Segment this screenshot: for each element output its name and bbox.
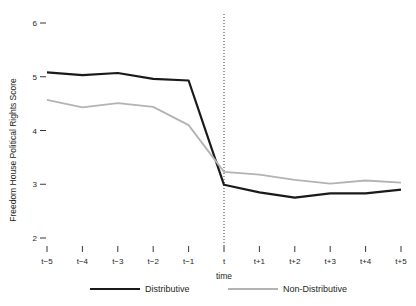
x-axis: t−5t−4t−3t−2t−1tt+1t+2t+3t+4t+5 time — [41, 246, 407, 281]
y-tick-label: 2 — [33, 234, 38, 243]
x-tick-label: t+3 — [325, 257, 337, 266]
x-tick-label: t−4 — [77, 257, 89, 266]
x-tick-label: t+5 — [395, 257, 407, 266]
series-group — [47, 72, 401, 197]
x-tick-label: t — [223, 257, 226, 266]
x-tick-label: t−2 — [148, 257, 160, 266]
legend-label-1: Distributive — [145, 284, 190, 294]
chart-legend: DistributiveNon-Distributive — [90, 284, 347, 294]
legend-label-2: Non-Distributive — [283, 284, 347, 294]
x-tick-label: t+2 — [289, 257, 301, 266]
x-tick-label: t−1 — [183, 257, 195, 266]
y-tick-label: 5 — [33, 73, 38, 82]
y-tick-label: 3 — [33, 180, 38, 189]
series-line-non-distributive — [47, 100, 401, 184]
chart-figure: Freedom House Political Rights Score 234… — [0, 0, 416, 306]
x-tick-label: t−3 — [112, 257, 124, 266]
y-axis: Freedom House Political Rights Score 234… — [8, 19, 46, 243]
y-tick-label: 6 — [33, 19, 38, 28]
x-tick-label: t+4 — [360, 257, 372, 266]
x-tick-label: t−5 — [41, 257, 53, 266]
x-tick-group: t−5t−4t−3t−2t−1tt+1t+2t+3t+4t+5 — [41, 246, 407, 266]
y-tick-label: 4 — [33, 127, 38, 136]
series-line-distributive — [47, 72, 401, 197]
y-tick-group: 23456 — [33, 19, 46, 243]
y-axis-title: Freedom House Political Rights Score — [8, 78, 18, 222]
line-chart: Freedom House Political Rights Score 234… — [0, 0, 416, 306]
x-tick-label: t+1 — [254, 257, 266, 266]
x-axis-title: time — [216, 271, 232, 281]
